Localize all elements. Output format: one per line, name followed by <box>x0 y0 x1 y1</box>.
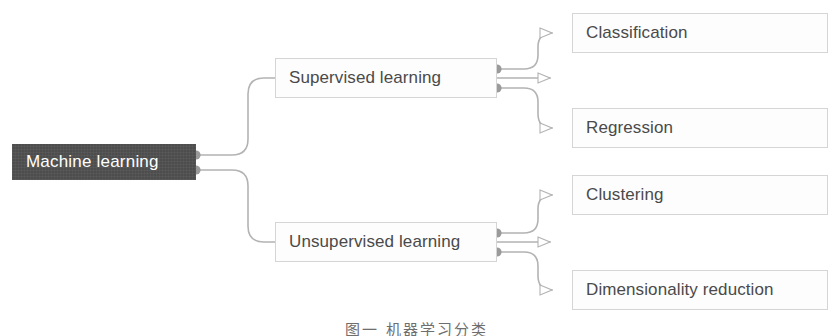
figure-caption: 图一 机器学习分类 <box>0 318 833 336</box>
node-clustering[interactable]: Clustering <box>572 175 828 215</box>
node-machine-learning[interactable]: Machine learning <box>12 144 196 180</box>
node-label-machine-learning: Machine learning <box>26 152 159 172</box>
edge-supervised-classification <box>497 33 552 69</box>
node-label-regression: Regression <box>586 118 673 138</box>
node-label-dimensionality-reduction: Dimensionality reduction <box>586 280 774 300</box>
edge-supervised-regression <box>497 88 552 128</box>
edge-unsupervised-dimensionality <box>497 252 552 290</box>
edge-unsupervised-clustering <box>497 195 552 233</box>
node-label-classification: Classification <box>586 23 688 43</box>
node-label-unsupervised-learning: Unsupervised learning <box>289 232 460 252</box>
node-supervised-learning[interactable]: Supervised learning <box>275 58 497 98</box>
node-unsupervised-learning[interactable]: Unsupervised learning <box>275 222 497 262</box>
node-label-clustering: Clustering <box>586 185 664 205</box>
mindmap-diagram: Machine learning Supervised learning Uns… <box>0 0 833 336</box>
node-classification[interactable]: Classification <box>572 13 828 53</box>
node-dimensionality-reduction[interactable]: Dimensionality reduction <box>572 270 828 310</box>
node-regression[interactable]: Regression <box>572 108 828 148</box>
node-label-supervised-learning: Supervised learning <box>289 68 441 88</box>
